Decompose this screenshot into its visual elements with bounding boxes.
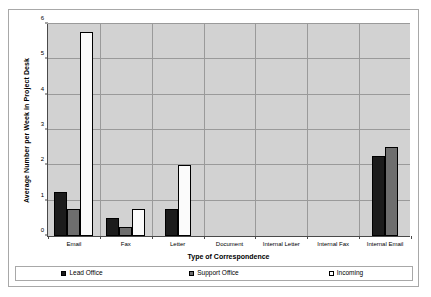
bar-email-incoming[interactable] [80, 32, 93, 236]
legend-entry-lead-office[interactable]: Lead Office [16, 270, 148, 277]
y-axis-title: Average Number per Week in Project Desk [21, 24, 33, 237]
plot-area: 0123456 EmailFaxLetterDocumentInternal L… [47, 24, 410, 237]
bar-letter-incoming[interactable] [178, 165, 191, 236]
legend-label: Incoming [337, 270, 363, 277]
bar-group-fax [100, 24, 152, 236]
x-tick-mark-4 [255, 236, 256, 239]
x-tick-label-internal-email: Internal Email [367, 241, 404, 247]
bar-internal-email-lead-office[interactable] [372, 156, 385, 236]
y-tick-label-3: 3 [41, 121, 44, 127]
x-tick-mark-3 [204, 236, 205, 239]
bar-email-support-office[interactable] [67, 209, 80, 236]
bar-group-letter [152, 24, 204, 236]
legend-swatch-icon [189, 271, 194, 276]
y-tick-label-0: 0 [41, 227, 44, 233]
bar-group-internal-letter [255, 24, 307, 236]
bar-email-lead-office[interactable] [54, 192, 67, 236]
bar-letter-lead-office[interactable] [165, 209, 178, 236]
x-tick-mark-1 [100, 236, 101, 239]
y-tick-label-1: 1 [41, 192, 44, 198]
bar-internal-email-support-office[interactable] [385, 147, 398, 236]
legend-entry-incoming[interactable]: Incoming [280, 270, 412, 277]
legend-entry-support-office[interactable]: Support Office [148, 270, 280, 277]
x-tick-label-internal-fax: Internal Fax [317, 241, 349, 247]
legend-swatch-icon [329, 271, 334, 276]
legend-swatch-icon [61, 271, 66, 276]
y-axis-title-text: Average Number per Week in Project Desk [24, 58, 31, 203]
legend-label: Support Office [197, 270, 238, 277]
x-tick-label-fax: Fax [121, 241, 131, 247]
bar-fax-incoming[interactable] [132, 209, 145, 236]
x-tick-label-internal-letter: Internal Letter [263, 241, 300, 247]
x-tick-label-letter: Letter [170, 241, 185, 247]
x-tick-label-email: Email [66, 241, 81, 247]
y-tick-label-5: 5 [41, 50, 44, 56]
x-tick-mark-7 [411, 236, 412, 239]
x-axis-title: Type of Correspondence [47, 253, 410, 260]
x-tick-label-document: Document [216, 241, 243, 247]
y-tick-label-6: 6 [41, 15, 44, 21]
x-tick-mark-0 [48, 236, 49, 239]
bar-fax-lead-office[interactable] [106, 218, 119, 236]
y-tick-label-2: 2 [41, 156, 44, 162]
bar-fax-support-office[interactable] [119, 227, 132, 236]
bar-group-document [204, 24, 256, 236]
y-tick-label-4: 4 [41, 86, 44, 92]
x-tick-mark-2 [152, 236, 153, 239]
bar-group-internal-fax [307, 24, 359, 236]
bar-group-internal-email [359, 24, 411, 236]
legend-label: Lead Office [69, 270, 102, 277]
x-tick-mark-6 [359, 236, 360, 239]
x-tick-mark-5 [307, 236, 308, 239]
bar-group-email [48, 24, 100, 236]
chart-legend: Lead OfficeSupport OfficeIncoming [15, 266, 413, 281]
chart-frame: Average Number per Week in Project Desk … [8, 9, 419, 287]
plot-region: 0123456 EmailFaxLetterDocumentInternal L… [47, 24, 410, 237]
